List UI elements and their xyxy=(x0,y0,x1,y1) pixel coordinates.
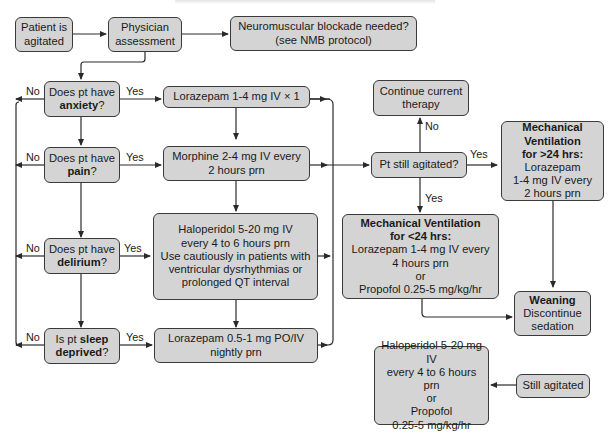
node-patient-agitated: Patient is agitated xyxy=(15,17,73,52)
node-text: Lorazepam 1-4 mg IV × 1 xyxy=(173,90,300,103)
node-text: Is pt xyxy=(56,333,80,345)
node-title: Mechanical xyxy=(522,121,582,134)
node-title: for >24 hrs: xyxy=(522,148,583,161)
label-still-no: No xyxy=(425,120,439,132)
node-text: Neuromuscular blockade needed? xyxy=(238,20,408,33)
label-sleep-yes: Yes xyxy=(126,331,144,343)
node-title: Ventilation xyxy=(524,135,581,148)
node-text-bold: anxiety xyxy=(60,99,99,111)
node-text-bold: deprived xyxy=(56,346,103,358)
decision-anxiety: Does pt have anxiety? xyxy=(44,81,120,117)
node-text: 4 hours prn xyxy=(392,257,449,270)
node-text: every 4 to 6 hours prn xyxy=(378,366,485,392)
node-text: Still agitated xyxy=(523,379,584,392)
node-text: ? xyxy=(98,99,104,111)
node-rescue-haloperidol-propofol: Haloperidol 5-20 mg IV every 4 to 6 hour… xyxy=(374,346,489,425)
node-title: for <24 hrs: xyxy=(390,230,451,243)
node-text: therapy xyxy=(402,98,439,111)
node-text: 2 hours prn xyxy=(524,187,581,200)
node-text: ? xyxy=(101,256,107,268)
treatment-lorazepam-anxiety: Lorazepam 1-4 mg IV × 1 xyxy=(163,86,310,108)
decision-pain: Does pt have pain? xyxy=(44,147,120,183)
node-text: nightly prn xyxy=(210,346,262,359)
node-text: Physician xyxy=(121,21,169,34)
node-text: 0.25-5 mg/kg/hr xyxy=(392,419,470,432)
node-text: ? xyxy=(102,346,108,358)
decision-pt-still-agitated: Pt still agitated? xyxy=(371,152,467,178)
node-mechanical-ventilation-over-24h: Mechanical Ventilation for >24 hrs: Lora… xyxy=(501,121,604,201)
node-text: Does pt have xyxy=(49,243,115,256)
node-text: Lorazepam 0.5-1 mg PO/IV xyxy=(168,332,304,345)
treatment-morphine-pain: Morphine 2-4 mg IV every 2 hours prn xyxy=(163,146,310,181)
node-nmb-needed: Neuromuscular blockade needed? (see NMB … xyxy=(230,16,417,51)
node-still-agitated: Still agitated xyxy=(516,374,590,398)
node-text: Does pt have xyxy=(49,86,115,99)
label-pain-no: No xyxy=(26,151,40,163)
node-text: Propofol 0.25-5 mg/kg/hr xyxy=(359,283,482,296)
node-text: assessment xyxy=(115,35,175,48)
node-text: 1-4 mg IV every xyxy=(513,174,592,187)
node-text: or xyxy=(416,270,426,283)
label-still-yes-down: Yes xyxy=(425,192,443,204)
node-text: ventricular dysrhythmias or xyxy=(169,263,303,276)
node-title: Weaning xyxy=(529,294,575,307)
node-text: (see NMB protocol) xyxy=(275,34,371,47)
label-delirium-yes: Yes xyxy=(124,242,142,254)
node-text: agitated xyxy=(24,35,64,48)
node-text: every 4 to 6 hours prn xyxy=(181,237,290,250)
label-anxiety-no: No xyxy=(26,85,40,97)
node-text: Propofol xyxy=(411,405,453,418)
node-mechanical-ventilation-under-24h: Mechanical Ventilation for <24 hrs: Lora… xyxy=(342,214,499,299)
node-text-bold: pain xyxy=(67,165,90,177)
node-text: Lorazepam 1-4 mg IV every xyxy=(351,243,489,256)
node-text: ? xyxy=(90,165,96,177)
node-text: Morphine 2-4 mg IV every xyxy=(172,150,301,163)
treatment-haloperidol-delirium: Haloperidol 5-20 mg IV every 4 to 6 hour… xyxy=(153,213,318,300)
decision-delirium: Does pt have delirium? xyxy=(44,238,120,274)
node-text: Patient is xyxy=(21,21,67,34)
node-continue-therapy: Continue current therapy xyxy=(373,80,469,116)
decision-sleep-deprived: Is pt sleep deprived? xyxy=(44,328,120,364)
label-anxiety-yes: Yes xyxy=(126,85,144,97)
label-delirium-no: No xyxy=(26,242,40,254)
treatment-lorazepam-sleep: Lorazepam 0.5-1 mg PO/IV nightly prn xyxy=(154,328,318,363)
node-text-bold: delirium xyxy=(57,256,101,268)
label-still-yes-right: Yes xyxy=(470,148,488,160)
node-text: Discontinue xyxy=(523,307,581,320)
node-text: Haloperidol 5-20 mg IV xyxy=(378,339,485,365)
node-text: Haloperidol 5-20 mg IV xyxy=(178,223,292,236)
node-text: or xyxy=(427,392,437,405)
node-text: Pt still agitated? xyxy=(380,158,459,171)
label-sleep-no: No xyxy=(26,331,40,343)
node-text: Lorazepam xyxy=(525,161,581,174)
node-weaning: Weaning Discontinue sedation xyxy=(514,291,591,336)
cropped-header xyxy=(175,0,435,4)
node-text: 2 hours prn xyxy=(208,164,265,177)
node-title: Mechanical Ventilation xyxy=(361,217,481,230)
node-text: Does pt have xyxy=(49,152,115,165)
node-text: Continue current xyxy=(380,85,463,98)
label-pain-yes: Yes xyxy=(126,151,144,163)
node-text: prolonged QT interval xyxy=(182,276,289,289)
node-physician-assessment: Physician assessment xyxy=(108,17,182,52)
node-text-bold: sleep xyxy=(80,333,109,345)
node-text: Use cautiously in patients with xyxy=(161,250,311,263)
node-text: sedation xyxy=(531,320,573,333)
